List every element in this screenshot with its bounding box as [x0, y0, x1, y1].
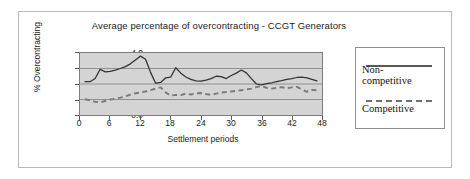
y-axis-label: % Overcontracting: [32, 21, 42, 93]
x-tick-label-0: 0: [70, 119, 88, 128]
legend-label-non-competitive-line2: competitive: [362, 76, 442, 86]
legend-label-competitive: Competitive: [362, 104, 442, 114]
x-tick-label-42: 42: [283, 119, 301, 128]
x-tick-label-36: 36: [253, 119, 271, 128]
x-tick-label-12: 12: [131, 119, 149, 128]
series-line-non-competitive: [85, 56, 317, 85]
x-tick-label-48: 48: [313, 119, 331, 128]
plot-svg: [80, 53, 322, 115]
legend-swatch-non-competitive: [364, 56, 434, 64]
gridlines: [80, 69, 322, 100]
x-tick-label-30: 30: [222, 119, 240, 128]
legend-label-non-competitive-line1: Non-: [362, 65, 442, 75]
legend-swatch-competitive: [364, 91, 434, 99]
x-tick-label-18: 18: [161, 119, 179, 128]
x-tick-label-6: 6: [100, 119, 118, 128]
plot-area: [79, 52, 323, 116]
chart-figure: Average percentage of overcontracting - …: [18, 11, 452, 168]
chart-legend: Non- competitive Competitive: [355, 47, 445, 129]
x-tick-label-24: 24: [192, 119, 210, 128]
x-axis-label: Settlement periods: [123, 134, 283, 144]
chart-title: Average percentage of overcontracting - …: [74, 20, 364, 31]
